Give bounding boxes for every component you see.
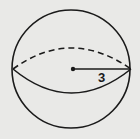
sphere-diagram: 3 bbox=[0, 0, 140, 139]
equator-visible-arc bbox=[13, 69, 131, 93]
equator-hidden-arc bbox=[13, 48, 131, 69]
radius-label: 3 bbox=[98, 70, 105, 85]
